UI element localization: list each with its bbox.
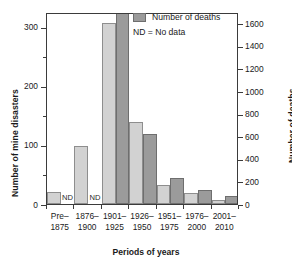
y-tick-right	[238, 182, 243, 183]
y-tick-label-right: 200	[245, 177, 259, 187]
bar-disasters	[184, 193, 198, 204]
x-tick	[211, 205, 212, 209]
y-tick-right	[238, 47, 243, 48]
x-tick	[238, 205, 239, 209]
legend-note-row: ND = No data	[133, 26, 220, 38]
legend-label-deaths: Number of deaths	[152, 12, 220, 22]
x-tick	[46, 205, 47, 209]
bar-deaths	[170, 178, 184, 204]
x-axis-title: Periods of years	[0, 247, 292, 257]
legend-swatch-deaths	[133, 13, 146, 22]
y-tick-label-right: 800	[245, 109, 259, 119]
x-category-label: 2001–2010	[207, 211, 242, 232]
x-tick	[128, 205, 129, 209]
y-tick-right	[238, 24, 243, 25]
bar-deaths	[225, 196, 238, 204]
y-tick-right	[238, 160, 243, 161]
nodata-label: ND	[88, 193, 102, 202]
x-tick	[183, 205, 184, 209]
bar-disasters	[129, 122, 143, 204]
y-tick-label-left: 200	[4, 81, 38, 91]
y-tick-right	[238, 137, 243, 138]
bar-disasters	[212, 200, 226, 204]
y-tick-left-minor	[43, 57, 46, 58]
x-tick	[156, 205, 157, 209]
y-tick-right	[238, 92, 243, 93]
legend-nodata-note: ND = No data	[133, 27, 185, 37]
y-tick-label-right: 1000	[245, 87, 264, 97]
bar-disasters	[74, 146, 88, 204]
y-tick-left-minor	[43, 175, 46, 176]
bar-deaths	[116, 13, 130, 204]
bar-deaths	[198, 190, 212, 204]
figure: Number of mine disasters Number of death…	[0, 0, 292, 267]
y-tick-label-right: 1400	[245, 41, 264, 51]
nodata-label: ND	[61, 193, 75, 202]
y-tick-left	[41, 146, 46, 147]
bar-deaths	[143, 134, 157, 204]
y-tick-right	[238, 69, 243, 70]
legend-entry-deaths: Number of deaths	[133, 11, 220, 23]
y-tick-label-right: 400	[245, 154, 259, 164]
y-tick-label-left: 0	[4, 200, 38, 210]
plot-area: NDND	[46, 13, 238, 205]
x-tick	[73, 205, 74, 209]
y-axis-right-title: Number of deaths	[287, 88, 292, 163]
y-tick-label-right: 600	[245, 132, 259, 142]
x-tick	[101, 205, 102, 209]
x-category-line1: 2001–	[207, 211, 242, 222]
y-tick-label-left: 100	[4, 140, 38, 150]
y-tick-label-left: 300	[4, 22, 38, 32]
y-tick-label-right: 0	[245, 200, 250, 210]
chart-legend: Number of deaths ND = No data	[133, 11, 220, 41]
bar-disasters	[47, 192, 61, 204]
y-tick-left	[41, 87, 46, 88]
bar-disasters	[157, 185, 171, 204]
y-tick-label-right: 1600	[245, 19, 264, 29]
bar-disasters	[102, 23, 116, 204]
y-tick-left-minor	[43, 116, 46, 117]
y-tick-left	[41, 28, 46, 29]
x-category-line2: 2010	[207, 222, 242, 233]
y-tick-right	[238, 115, 243, 116]
y-tick-label-right: 1200	[245, 64, 264, 74]
